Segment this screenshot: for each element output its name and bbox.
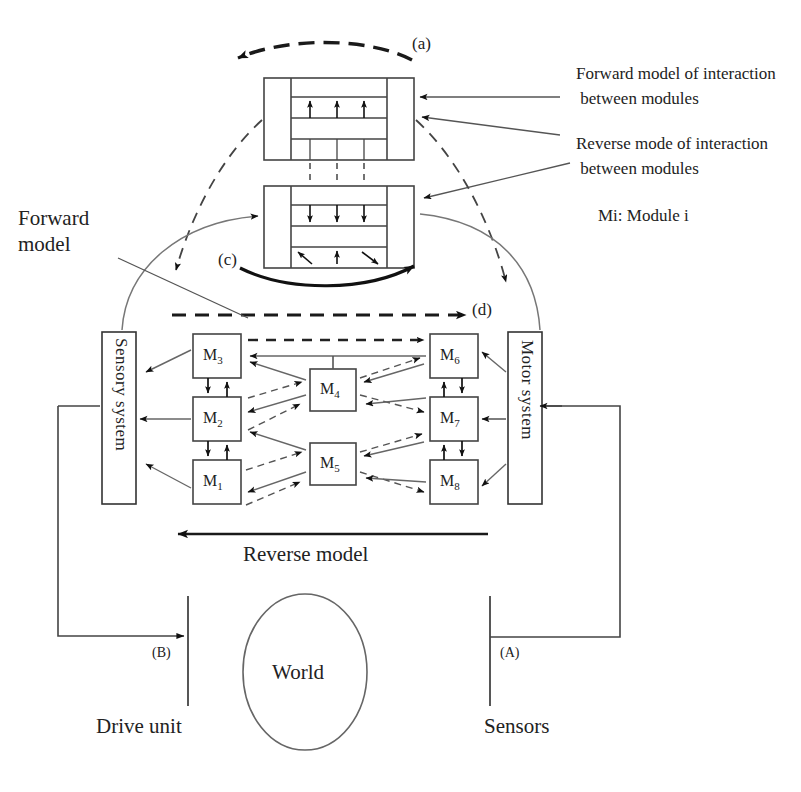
module-label-m8: M8 bbox=[440, 472, 460, 492]
stack-interconnect-dashes bbox=[310, 163, 364, 183]
module-label-m2: M2 bbox=[203, 409, 223, 429]
module-label-m6-text: M6 bbox=[440, 346, 460, 363]
label-world: World bbox=[272, 659, 324, 685]
module-label-m7: M7 bbox=[440, 409, 460, 429]
module-label-m1-text: M1 bbox=[203, 472, 223, 489]
tag-d: (d) bbox=[472, 300, 492, 320]
module-label-m4-text: M4 bbox=[320, 380, 340, 397]
reverse-interaction-stack bbox=[264, 186, 414, 268]
module-label-m5: M5 bbox=[320, 454, 340, 474]
label-motor-system: Motor system bbox=[517, 340, 537, 504]
legend-reverse-interaction: Reverse mode of interaction between modu… bbox=[576, 132, 801, 181]
module-label-m8-text: M8 bbox=[440, 472, 460, 489]
tag-c: (c) bbox=[218, 250, 237, 270]
module-boxes bbox=[193, 334, 478, 504]
arc-right-dashed-down bbox=[416, 120, 506, 282]
legend-module-key: Mi: Module i bbox=[598, 204, 689, 229]
module-label-m3: M3 bbox=[203, 346, 223, 366]
label-forward-model: Forward model bbox=[18, 205, 89, 258]
module-label-m4: M4 bbox=[320, 380, 340, 400]
module-label-m2-text: M2 bbox=[203, 409, 223, 426]
arc-a-feedback bbox=[238, 42, 412, 60]
arc-left-dashed-down bbox=[176, 120, 262, 270]
tag-a: (a) bbox=[412, 34, 431, 54]
legend-leader-forward-2 bbox=[422, 117, 560, 135]
legend-leader-reverse bbox=[424, 163, 570, 198]
module-label-m5-text: M5 bbox=[320, 454, 340, 471]
legend-forward-interaction: Forward model of interaction between mod… bbox=[576, 62, 801, 111]
module-label-m3-text: M3 bbox=[203, 346, 223, 363]
tag-B: (B) bbox=[152, 645, 171, 661]
arc-c-thick bbox=[240, 266, 414, 286]
label-drive-unit: Drive unit bbox=[96, 713, 182, 739]
diagram-canvas: (a) Forward model of interaction between… bbox=[0, 0, 801, 792]
label-sensors: Sensors bbox=[484, 713, 549, 739]
module-label-m7-text: M7 bbox=[440, 409, 460, 426]
module-label-m6: M6 bbox=[440, 346, 460, 366]
forward-interaction-stack bbox=[264, 78, 414, 160]
label-reverse-model: Reverse model bbox=[243, 541, 368, 567]
module-label-m1: M1 bbox=[203, 472, 223, 492]
tag-A: (A) bbox=[500, 645, 519, 661]
label-sensory-system: Sensory system bbox=[111, 338, 131, 502]
